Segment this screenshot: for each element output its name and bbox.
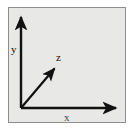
coordinate-axes-figure: y z x [0, 0, 134, 131]
y-axis-label: y [11, 44, 17, 55]
z-axis-label: z [56, 52, 61, 63]
x-axis-label: x [64, 112, 70, 123]
z-axis-arrow [21, 69, 55, 109]
